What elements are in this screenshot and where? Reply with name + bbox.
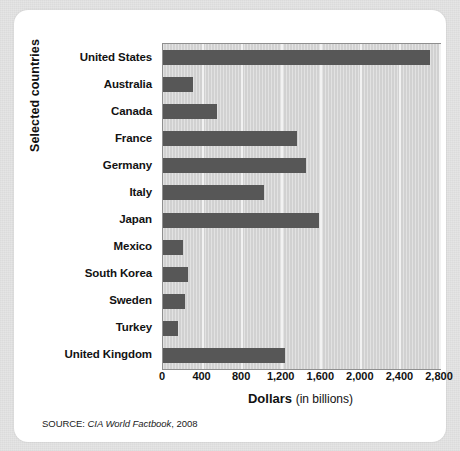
bar-row xyxy=(163,342,440,369)
x-axis-title-main: Dollars xyxy=(248,391,292,406)
bar-row xyxy=(163,206,440,233)
category-label-row: Australia xyxy=(44,70,158,97)
bar xyxy=(163,50,430,65)
bar-row xyxy=(163,234,440,261)
bar-row xyxy=(163,261,440,288)
bar-row xyxy=(163,71,440,98)
bar-row xyxy=(163,179,440,206)
category-label: Australia xyxy=(104,78,152,90)
y-axis-category-labels: United StatesAustraliaCanadaFranceGerman… xyxy=(44,43,158,368)
bar xyxy=(163,294,185,309)
source-note: SOURCE: CIA World Factbook, 2008 xyxy=(42,418,197,429)
bar xyxy=(163,131,297,146)
bar xyxy=(163,267,188,282)
category-label: Sweden xyxy=(109,294,152,306)
x-tick-label: 800 xyxy=(232,370,250,382)
category-label: France xyxy=(115,132,152,144)
category-label: Mexico xyxy=(114,240,152,252)
category-label: United Kingdom xyxy=(65,348,152,360)
bar xyxy=(163,185,264,200)
category-label: Japan xyxy=(119,213,152,225)
bar-chart-figure: Selected countries United StatesAustrali… xyxy=(14,10,446,442)
category-label: Canada xyxy=(111,105,152,117)
bars-container xyxy=(163,44,440,369)
bar xyxy=(163,348,285,363)
bar xyxy=(163,213,319,228)
source-title: CIA World Factbook xyxy=(88,418,172,429)
bar xyxy=(163,104,217,119)
source-year: , 2008 xyxy=(171,418,197,429)
category-label: Italy xyxy=(129,186,152,198)
category-label-row: Italy xyxy=(44,178,158,205)
bar xyxy=(163,77,193,92)
category-label: South Korea xyxy=(85,267,152,279)
category-label-row: Mexico xyxy=(44,233,158,260)
category-label-row: Turkey xyxy=(44,314,158,341)
x-tick-label: 2,800 xyxy=(425,370,453,382)
category-label: Germany xyxy=(103,159,152,171)
bar-row xyxy=(163,288,440,315)
bar-row xyxy=(163,315,440,342)
bar xyxy=(163,158,306,173)
chart-card: Selected countries United StatesAustrali… xyxy=(14,10,446,442)
x-tick-label: 0 xyxy=(159,370,165,382)
bar xyxy=(163,240,183,255)
x-tick-label: 1,200 xyxy=(267,370,295,382)
bar-row xyxy=(163,125,440,152)
category-label: United States xyxy=(80,51,152,63)
x-axis-title: Dollars (in billions) xyxy=(162,391,439,406)
category-label-row: Canada xyxy=(44,97,158,124)
bar-row xyxy=(163,44,440,71)
category-label-row: South Korea xyxy=(44,260,158,287)
category-label-row: Sweden xyxy=(44,287,158,314)
category-label-row: France xyxy=(44,124,158,151)
source-prefix: SOURCE: xyxy=(42,418,85,429)
x-tick-label: 400 xyxy=(192,370,210,382)
bar-row xyxy=(163,98,440,125)
plot-area xyxy=(162,43,441,370)
x-tick-label: 2,400 xyxy=(386,370,414,382)
x-tick-label: 2,000 xyxy=(346,370,374,382)
category-label-row: Japan xyxy=(44,205,158,232)
category-label-row: United States xyxy=(44,43,158,70)
category-label-row: Germany xyxy=(44,151,158,178)
y-axis-title: Selected countries xyxy=(28,0,42,152)
bar xyxy=(163,321,178,336)
bar-row xyxy=(163,152,440,179)
category-label: Turkey xyxy=(116,321,152,333)
x-axis-tick-labels: 04008001,2001,6002,0002,4002,800 xyxy=(162,370,439,386)
x-axis-title-sub: (in billions) xyxy=(296,392,353,406)
category-label-row: United Kingdom xyxy=(44,341,158,368)
x-tick-label: 1,600 xyxy=(307,370,335,382)
